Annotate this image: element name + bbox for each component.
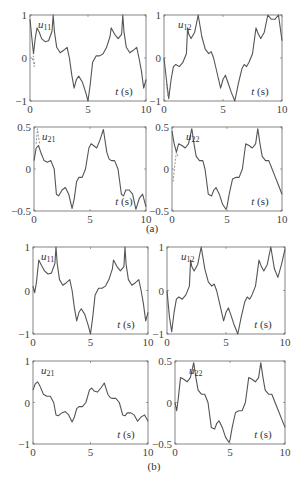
panel-a-u21: 0510−0.500.5u21t (s) — [11, 121, 152, 225]
series-title: u22 — [189, 364, 203, 378]
y-tick-label: −1 — [18, 328, 30, 340]
x-axis-label: t (s) — [117, 318, 135, 331]
y-tick-label: 1 — [25, 241, 31, 253]
panel-a-u11: 0510−101u11t (s) — [15, 9, 152, 115]
x-tick-label: 5 — [224, 213, 230, 225]
x-tick-label: 0 — [31, 213, 37, 225]
dashed-series-line — [32, 56, 34, 67]
series-title: u21 — [41, 364, 55, 378]
x-tick-label: 5 — [85, 103, 91, 115]
series-title: u11 — [41, 250, 54, 264]
x-tick-label: 0 — [30, 446, 36, 458]
x-tick-label: 10 — [280, 446, 292, 458]
y-tick-label: 0 — [156, 52, 162, 64]
x-tick-label: 5 — [227, 446, 233, 458]
y-tick-label: 0.5 — [158, 355, 172, 367]
series-title: u21 — [42, 130, 56, 144]
x-tick-label: 5 — [88, 446, 94, 458]
panel-a-u12: 0510−101u12t (s) — [149, 9, 288, 115]
y-tick-label: 0.5 — [17, 121, 31, 133]
y-tick-label: 1 — [159, 241, 165, 253]
y-tick-label: 0 — [164, 163, 170, 175]
y-tick-label: 0 — [26, 163, 32, 175]
y-tick-label: 0 — [159, 285, 165, 297]
y-tick-label: −0.5 — [152, 438, 172, 450]
panel-b-u11: 0510−101u11t (s) — [18, 241, 154, 348]
y-tick-label: 1 — [156, 9, 162, 21]
y-tick-label: 1 — [22, 9, 28, 21]
solid-series-line — [33, 382, 148, 422]
x-tick-label: 5 — [223, 336, 229, 348]
x-axis-label: t (s) — [115, 85, 133, 98]
dashed-series-line — [36, 129, 39, 144]
series-title: u12 — [181, 250, 195, 264]
x-tick-label: 0 — [164, 336, 170, 348]
x-tick-label: 10 — [280, 336, 292, 348]
y-tick-label: 1 — [25, 355, 31, 367]
x-axis-label: t (s) — [254, 428, 272, 441]
x-tick-label: 5 — [220, 103, 226, 115]
figure-canvas: 0510−101u11t (s)0510−101u12t (s)0510−0.5… — [0, 0, 303, 489]
x-axis-label: t (s) — [251, 195, 269, 208]
x-tick-label: 5 — [87, 213, 93, 225]
x-tick-label: 0 — [169, 213, 175, 225]
y-tick-label: 0 — [25, 285, 31, 297]
y-tick-label: 0 — [22, 52, 28, 64]
panel-b-u22: 0510−0.500.5u22t (s) — [152, 355, 291, 458]
y-tick-label: 0 — [25, 397, 31, 409]
dashed-series-line — [173, 152, 178, 181]
y-tick-label: −1 — [15, 95, 27, 107]
x-axis-label: t (s) — [254, 318, 272, 331]
y-tick-label: 0 — [167, 397, 173, 409]
x-tick-label: 0 — [161, 103, 167, 115]
y-tick-label: −1 — [149, 95, 161, 107]
y-tick-label: −1 — [18, 438, 30, 450]
x-tick-label: 0 — [172, 446, 178, 458]
y-tick-label: −0.5 — [149, 205, 169, 217]
x-axis-label: t (s) — [117, 428, 135, 441]
series-title: u12 — [178, 18, 192, 32]
series-title: u11 — [38, 18, 51, 32]
y-tick-label: −0.5 — [11, 205, 31, 217]
x-tick-label: 0 — [27, 103, 33, 115]
x-axis-label: t (s) — [115, 195, 133, 208]
x-axis-label: t (s) — [251, 85, 269, 98]
y-tick-label: 0.5 — [155, 121, 169, 133]
y-tick-label: −1 — [152, 328, 164, 340]
x-tick-label: 0 — [30, 336, 36, 348]
panel-b-u21: 0510−101u21t (s) — [18, 355, 154, 458]
x-tick-label: 5 — [88, 336, 94, 348]
x-tick-label: 10 — [277, 103, 289, 115]
x-tick-label: 10 — [277, 213, 289, 225]
panel-b-u12: 0510−101u12t (s) — [152, 241, 291, 348]
panel-a-u22: 0510−0.500.5u22t (s) — [149, 121, 288, 225]
